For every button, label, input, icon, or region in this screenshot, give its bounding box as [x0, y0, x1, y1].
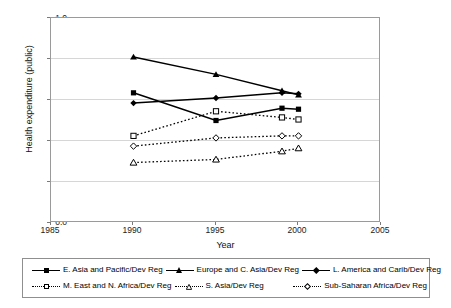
x-tick-label-1985: 1985	[30, 226, 70, 235]
x-tick-label-2005: 2005	[360, 226, 400, 235]
legend-item-europe-and-c-asia[interactable]: Europe and C. Asia/Dev Reg	[165, 262, 301, 278]
data-series-layer	[51, 18, 381, 223]
legend-label: Europe and C. Asia/Dev Reg	[197, 265, 301, 275]
legend-label: S. Asia/Dev Reg	[206, 281, 266, 291]
legend-item-m-east-and-n-africa[interactable]: M. East and N. Africa/Dev Reg	[31, 278, 174, 294]
series-5	[130, 133, 301, 150]
legend-label: L. America and Carib/Dev Reg	[333, 265, 443, 275]
legend-item-s-asia[interactable]: S. Asia/Dev Reg	[174, 278, 293, 294]
legend-label: M. East and N. Africa/Dev Reg	[63, 281, 174, 291]
plot-area	[50, 17, 380, 222]
x-tick-label-1990: 1990	[112, 226, 152, 235]
square-open-marker-icon	[31, 281, 61, 292]
legend-item-l-america-and-carib[interactable]: L. America and Carib/Dev Reg	[301, 262, 443, 278]
x-tick-label-2000: 2000	[277, 226, 317, 235]
triangle-filled-marker-icon	[165, 265, 195, 276]
chart-legend: E. Asia and Pacific/Dev Reg Europe and C…	[22, 258, 430, 298]
square-filled-marker-icon	[31, 265, 61, 276]
legend-item-e-asia-and-pacific[interactable]: E. Asia and Pacific/Dev Reg	[31, 262, 165, 278]
x-tick-label-1995: 1995	[195, 226, 235, 235]
legend-row-2: M. East and N. Africa/Dev Reg S. Asia/De…	[23, 278, 429, 294]
legend-label: E. Asia and Pacific/Dev Reg	[63, 265, 165, 275]
legend-item-sub-saharan-africa[interactable]: Sub-Saharan Africa/Dev Reg	[292, 278, 429, 294]
series-3	[131, 109, 301, 139]
y-axis-title: Health expenditure (public)	[24, 19, 34, 179]
series-4	[130, 145, 302, 165]
series-2	[130, 90, 301, 107]
series-1	[130, 54, 302, 98]
diamond-filled-marker-icon	[301, 265, 331, 276]
triangle-open-marker-icon	[174, 281, 204, 292]
legend-row-1: E. Asia and Pacific/Dev Reg Europe and C…	[23, 262, 429, 278]
x-axis-title: Year	[0, 240, 451, 250]
chart-container: Health expenditure (public) 1.0 0.8 0.6 …	[0, 0, 451, 308]
legend-label: Sub-Saharan Africa/Dev Reg	[324, 281, 429, 291]
diamond-open-marker-icon	[292, 281, 322, 292]
